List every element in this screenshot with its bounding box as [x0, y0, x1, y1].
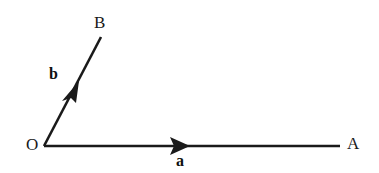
- vector-diagram-canvas: [0, 0, 379, 173]
- point-label-b: B: [94, 14, 105, 31]
- point-label-a: A: [347, 135, 359, 152]
- vector-a-group: [44, 137, 340, 155]
- vector-label-a: a: [176, 153, 184, 169]
- point-label-o: O: [26, 136, 38, 153]
- vector-b-arrowhead: [62, 81, 79, 103]
- vector-diagram: O A B a b: [0, 0, 379, 173]
- vector-b-group: [44, 37, 101, 146]
- vector-label-b: b: [49, 66, 58, 82]
